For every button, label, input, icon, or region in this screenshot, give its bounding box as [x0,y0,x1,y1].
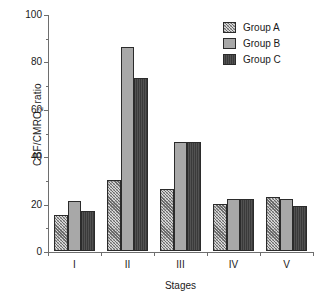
bar [266,197,280,252]
y-tick-label: 20 [31,200,42,210]
y-tick-label: 0 [36,247,42,257]
x-tick [101,252,102,256]
x-axis-title: Stages [48,280,313,291]
y-tick-label: 40 [31,152,42,162]
x-axis-line [48,252,313,253]
legend-item: Group C [223,51,281,67]
y-tick-major [44,110,48,111]
x-tick-label: V [283,259,290,270]
legend-label: Group A [243,22,280,33]
bar [68,201,82,251]
legend-item: Group A [223,19,281,35]
legend-item: Group B [223,35,281,51]
y-axis-title: CBF/CMRO2 ratio [32,25,45,225]
y-tick-minor [46,86,49,87]
bar [240,199,254,251]
x-tick-label: II [125,259,131,270]
y-tick-major [44,157,48,158]
bar [107,180,121,251]
bar [134,78,148,251]
x-tick-label: III [176,259,184,270]
x-tick [260,252,261,256]
chart-legend: Group AGroup BGroup C [223,19,281,67]
bar [187,142,201,251]
x-tick [48,252,49,256]
legend-swatch-icon [223,22,236,33]
y-tick-minor [46,39,49,40]
y-tick-label: 100 [25,10,42,20]
y-tick-label: 80 [31,57,42,67]
x-tick-label: IV [229,259,238,270]
legend-label: Group C [243,54,281,65]
y-tick-label: 60 [31,105,42,115]
y-tick-major [44,15,48,16]
x-tick [207,252,208,256]
legend-swatch-icon [223,54,236,65]
y-tick-major [44,62,48,63]
y-tick-minor [46,228,49,229]
y-axis-line [48,15,49,253]
bar-chart: CBF/CMRO2 ratio 020406080100 IIIIIIIVV S… [0,0,320,295]
bar [81,211,95,251]
bar [121,47,135,251]
y-tick-major [44,205,48,206]
x-tick [154,252,155,256]
legend-swatch-icon [223,38,236,49]
bar [227,199,241,251]
bar [174,142,188,251]
legend-label: Group B [243,38,280,49]
y-tick-minor [46,181,49,182]
bar [213,204,227,251]
bar [293,206,307,251]
bar [280,199,294,251]
y-tick-minor [46,134,49,135]
bar [160,189,174,251]
bar [54,215,68,251]
x-tick-label: I [73,259,76,270]
x-tick [313,252,314,256]
